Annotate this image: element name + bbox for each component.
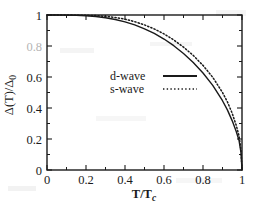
- legend-label-s-wave: s-wave: [110, 82, 144, 96]
- y-axis-label: Δ(T)/Δ0: [2, 75, 18, 116]
- chart-canvas: 00.20.40.60.81 00.20.40.60.81 d-waves-wa…: [0, 0, 258, 203]
- legend-label-d-wave: d-wave: [110, 69, 145, 83]
- y-tick-label: 0.4: [26, 102, 42, 116]
- y-tick-label: 0.6: [26, 71, 42, 85]
- y-tick-label: 0.2: [26, 133, 42, 147]
- y-tick-label: 0.8: [26, 40, 42, 54]
- x-tick-label: 0.6: [156, 173, 172, 187]
- x-tick-label: 0.8: [195, 173, 211, 187]
- svg-text:Δ(T)/Δ0: Δ(T)/Δ0: [2, 75, 18, 116]
- x-tick-label: 0: [44, 173, 50, 187]
- y-tick-label: 0: [36, 164, 42, 178]
- y-tick-label: 1: [36, 9, 42, 23]
- x-tick-label: 1: [239, 173, 245, 187]
- x-tick-label: 0.2: [78, 173, 94, 187]
- gap-vs-temperature-figure: 00.20.40.60.81 00.20.40.60.81 d-waves-wa…: [0, 0, 258, 203]
- x-tick-label: 0.4: [117, 173, 133, 187]
